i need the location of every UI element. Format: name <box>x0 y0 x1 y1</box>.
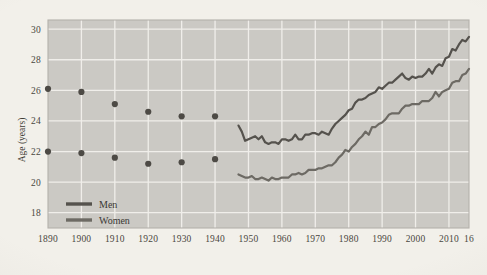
data-point-men <box>179 113 185 119</box>
data-point-men <box>45 86 51 92</box>
y-tick-label: 28 <box>31 55 41 65</box>
data-point-women <box>212 156 218 162</box>
data-point-men <box>212 113 218 119</box>
plot-area-background <box>48 20 469 228</box>
x-tick-label: 1970 <box>305 234 325 244</box>
x-tick-label: 1890 <box>38 234 58 244</box>
x-tick-label: 1900 <box>72 234 92 244</box>
legend-label-women: Women <box>99 215 130 226</box>
x-tick-label: 1980 <box>339 234 359 244</box>
x-tick-label: 2000 <box>406 234 426 244</box>
chart-figure: 18202224262830 1890190019101920193019401… <box>0 0 487 275</box>
y-axis-title: Age (years) <box>17 118 28 163</box>
data-point-women <box>112 155 118 161</box>
y-tick-label: 24 <box>31 116 41 126</box>
data-point-men <box>112 101 118 107</box>
data-point-men <box>145 109 151 115</box>
y-tick-label: 26 <box>31 86 41 96</box>
data-point-women <box>179 159 185 165</box>
data-point-men <box>78 89 84 95</box>
y-tick-label: 22 <box>31 147 41 157</box>
x-tick-label: 1930 <box>172 234 192 244</box>
x-tick-label: 1920 <box>138 234 158 244</box>
age-at-first-marriage-chart: 18202224262830 1890190019101920193019401… <box>0 0 487 275</box>
data-point-women <box>78 150 84 156</box>
y-tick-label: 20 <box>31 178 41 188</box>
x-tick-label: 1910 <box>105 234 125 244</box>
legend-label-men: Men <box>99 199 117 210</box>
y-tick-label: 30 <box>31 25 41 35</box>
x-tick-label: 2010 <box>439 234 459 244</box>
y-tick-label: 18 <box>31 208 41 218</box>
x-tick-label: 16 <box>464 234 474 244</box>
x-tick-label: 1950 <box>239 234 259 244</box>
x-tick-label: 1960 <box>272 234 292 244</box>
data-point-women <box>145 161 151 167</box>
x-tick-label: 1990 <box>372 234 392 244</box>
data-point-women <box>45 148 51 154</box>
x-tick-label: 1940 <box>205 234 225 244</box>
